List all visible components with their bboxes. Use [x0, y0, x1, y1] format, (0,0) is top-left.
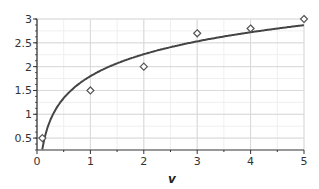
y-tick-label: 3	[25, 13, 32, 26]
y-axis-ticks: 0.511.522.53	[15, 13, 38, 150]
x-tick-label: 5	[301, 155, 308, 168]
y-tick-label: 2.5	[15, 37, 33, 50]
x-tick-label: 4	[247, 155, 254, 168]
y-tick-label: 1	[25, 108, 32, 121]
y-tick-label: 1.5	[15, 84, 33, 97]
chart: 012345 0.511.522.53 v	[0, 0, 319, 189]
data-point-marker	[140, 63, 147, 70]
x-tick-label: 3	[194, 155, 201, 168]
x-axis-ticks: 012345	[34, 150, 308, 168]
fit-curve	[42, 25, 304, 149]
x-tick-label: 2	[140, 155, 147, 168]
y-tick-label: 0.5	[15, 132, 33, 145]
y-tick-label: 2	[25, 61, 32, 74]
data-point-marker	[301, 16, 308, 23]
x-tick-label: 0	[34, 155, 41, 168]
x-axis-title: v	[168, 172, 177, 186]
x-tick-label: 1	[87, 155, 94, 168]
data-point-marker	[87, 87, 94, 94]
